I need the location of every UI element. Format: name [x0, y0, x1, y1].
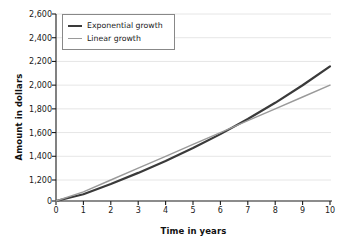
- legend-item-linear: Linear growth: [68, 32, 169, 45]
- growth-comparison-chart: Amount in dollars Time in years 01,2001,…: [0, 0, 338, 245]
- series-line-linear: [56, 85, 330, 201]
- legend-label-exponential: Exponential growth: [87, 21, 163, 31]
- chart-legend: Exponential growth Linear growth: [62, 14, 175, 50]
- legend-swatch-exponential-icon: [68, 25, 82, 27]
- legend-swatch-linear-icon: [68, 38, 82, 39]
- series-line-exponential: [56, 66, 330, 201]
- legend-item-exponential: Exponential growth: [68, 19, 169, 32]
- legend-label-linear: Linear growth: [87, 34, 141, 44]
